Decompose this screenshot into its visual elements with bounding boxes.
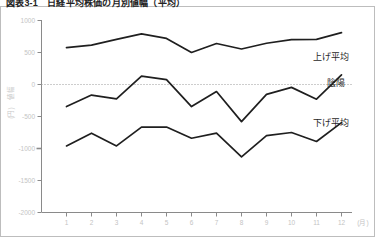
x-tick-label-12: 12 [338,219,346,226]
series-line-up [67,33,342,53]
data-series-group [67,33,342,157]
x-tick-labels: 1 2 3 4 5 6 7 8 9 10 11 12 (月) [65,219,369,227]
y-axis-title-line2: (円) [7,107,15,118]
x-tick-label-1: 1 [65,219,69,226]
y-tick-label-m500: -500 [22,113,35,120]
axes-group [42,20,353,213]
y-tick-label-1000: 1000 [21,17,36,24]
x-tick-label-5: 5 [165,219,169,226]
x-tick-label-4: 4 [140,219,144,226]
y-tick-label-m1500: -1500 [18,177,35,184]
y-axis-title: 値幅 (円) [6,86,15,119]
y-tick-label-0: 0 [31,81,35,88]
x-tick-label-10: 10 [288,219,296,226]
x-tick-label-8: 8 [240,219,244,226]
x-tick-label-3: 3 [115,219,119,226]
x-tick-label-2: 2 [90,219,94,226]
y-tick-labels: 1000 500 0 -500 -1000 -1500 -2000 [18,17,35,216]
x-tick-label-9: 9 [265,219,269,226]
chart-plot-area: 1000 500 0 -500 -1000 -1500 -2000 値幅 (円) [0,0,376,238]
series-line-down [67,123,342,157]
y-tick-label-m1000: -1000 [18,145,35,152]
y-tick-group [37,21,42,213]
x-axis-unit-label: (月) [357,219,368,227]
x-tick-label-6: 6 [190,219,194,226]
y-tick-label-500: 500 [24,49,35,56]
x-tick-group [67,213,342,217]
series-label-up: 上げ平均 [313,51,349,62]
series-labels-group: 上げ平均 陰陽 下げ平均 [313,51,349,128]
x-tick-label-7: 7 [215,219,219,226]
series-line-balance [67,75,342,122]
x-tick-label-11: 11 [313,219,320,226]
chart-figure: 図表3-1 日経平均株価の月別値幅（平均） 1000 500 0 -500 -1… [0,0,376,238]
series-label-balance: 陰陽 [327,77,345,88]
y-axis-title-line1: 値幅 [6,86,15,100]
series-label-down: 下げ平均 [313,117,349,128]
y-tick-label-m2000: -2000 [18,209,35,216]
